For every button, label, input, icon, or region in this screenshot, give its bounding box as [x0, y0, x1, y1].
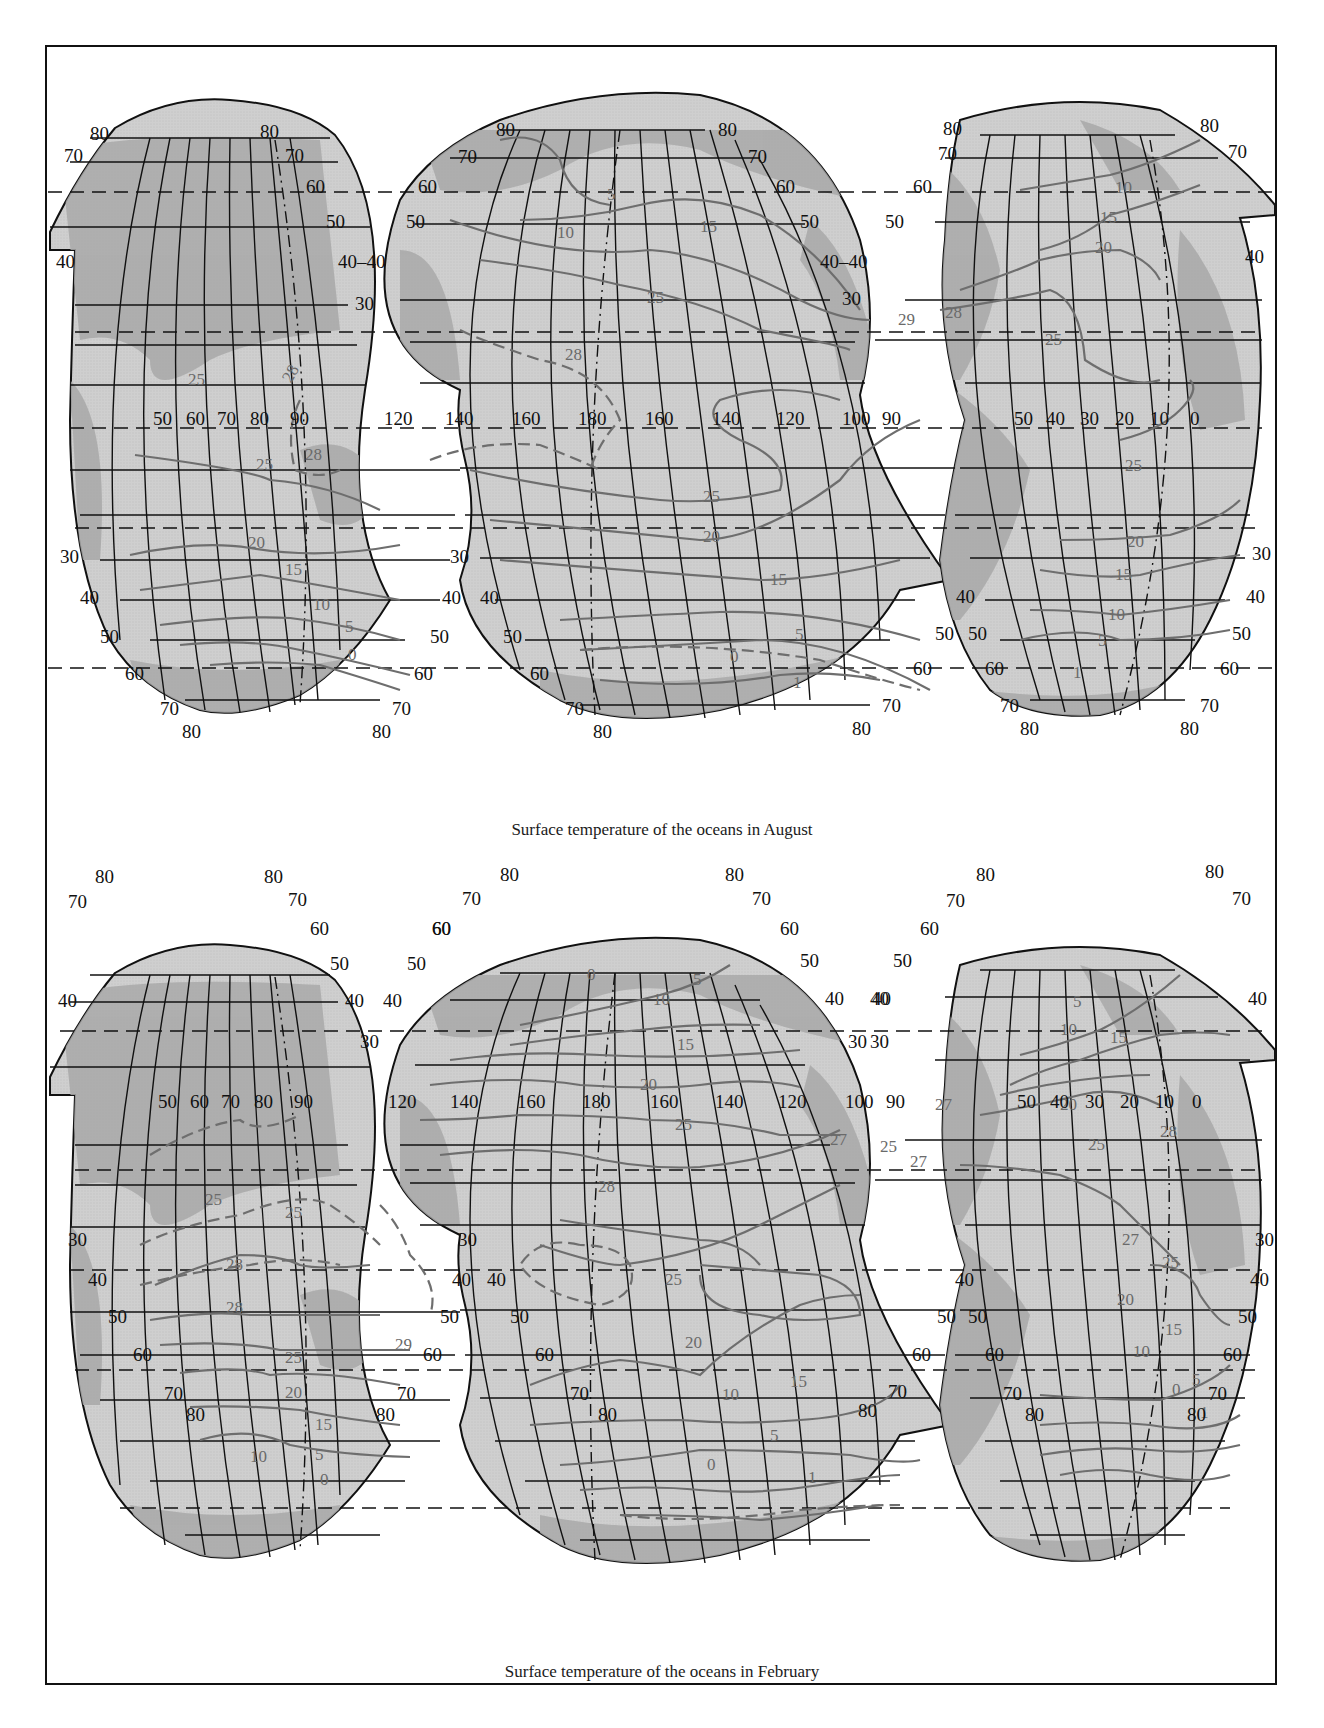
svg-text:15: 15 — [677, 1035, 694, 1054]
svg-text:20: 20 — [685, 1333, 702, 1352]
svg-text:28: 28 — [598, 1177, 615, 1196]
svg-text:10: 10 — [557, 223, 574, 242]
svg-text:15: 15 — [770, 570, 787, 589]
svg-text:70: 70 — [397, 1383, 416, 1404]
svg-text:60: 60 — [913, 176, 932, 197]
svg-text:5: 5 — [1073, 992, 1082, 1011]
svg-text:1: 1 — [793, 673, 802, 692]
svg-text:30: 30 — [1080, 408, 1099, 429]
svg-text:25: 25 — [256, 455, 273, 474]
svg-text:40: 40 — [872, 988, 891, 1009]
svg-text:80: 80 — [90, 123, 109, 144]
svg-text:40: 40 — [1050, 1091, 1069, 1112]
svg-text:60: 60 — [780, 918, 799, 939]
svg-text:180: 180 — [578, 408, 607, 429]
svg-text:5: 5 — [693, 970, 702, 989]
svg-text:70: 70 — [938, 143, 957, 164]
svg-text:1: 1 — [1073, 663, 1082, 682]
svg-text:80: 80 — [852, 718, 871, 739]
svg-text:60: 60 — [1220, 658, 1239, 679]
svg-text:28: 28 — [226, 1298, 243, 1317]
svg-text:80: 80 — [260, 121, 279, 142]
svg-text:100: 100 — [842, 408, 871, 429]
svg-text:120: 120 — [776, 408, 805, 429]
svg-text:5: 5 — [345, 617, 354, 636]
svg-text:27: 27 — [910, 1152, 928, 1171]
svg-text:80: 80 — [858, 1400, 877, 1421]
svg-text:10: 10 — [1060, 1020, 1077, 1039]
svg-text:20: 20 — [1127, 532, 1144, 551]
svg-text:0: 0 — [1192, 1091, 1202, 1112]
svg-text:40: 40 — [1245, 246, 1264, 267]
svg-text:70: 70 — [946, 890, 965, 911]
svg-text:20: 20 — [1120, 1091, 1139, 1112]
svg-text:40: 40 — [1250, 1269, 1269, 1290]
svg-text:10: 10 — [313, 595, 330, 614]
svg-text:70: 70 — [882, 695, 901, 716]
svg-text:40: 40 — [58, 990, 77, 1011]
svg-text:70: 70 — [392, 698, 411, 719]
svg-text:70: 70 — [1000, 695, 1019, 716]
svg-text:50: 50 — [510, 1306, 529, 1327]
svg-text:50: 50 — [158, 1091, 177, 1112]
svg-text:27: 27 — [830, 1130, 848, 1149]
svg-text:25: 25 — [665, 1270, 682, 1289]
svg-text:30: 30 — [848, 1031, 867, 1052]
svg-text:40: 40 — [452, 1269, 471, 1290]
svg-text:50: 50 — [100, 626, 119, 647]
svg-text:15: 15 — [315, 1415, 332, 1434]
caption-august: Surface temperature of the oceans in Aug… — [0, 820, 1324, 840]
svg-text:60: 60 — [985, 658, 1004, 679]
svg-text:50: 50 — [326, 211, 345, 232]
svg-text:40: 40 — [825, 988, 844, 1009]
svg-text:50: 50 — [1014, 408, 1033, 429]
svg-text:15: 15 — [790, 1372, 807, 1391]
svg-text:70: 70 — [1003, 1383, 1022, 1404]
svg-text:70: 70 — [748, 146, 767, 167]
svg-text:40: 40 — [80, 587, 99, 608]
svg-text:70: 70 — [164, 1383, 183, 1404]
svg-text:10: 10 — [250, 1447, 267, 1466]
svg-text:80: 80 — [1205, 861, 1224, 882]
svg-text:1: 1 — [808, 1468, 817, 1487]
svg-text:80: 80 — [1180, 718, 1199, 739]
svg-text:80: 80 — [500, 864, 519, 885]
svg-text:120: 120 — [388, 1091, 417, 1112]
svg-text:0: 0 — [1190, 408, 1200, 429]
svg-text:0: 0 — [1172, 1380, 1181, 1399]
svg-text:70: 70 — [1232, 888, 1251, 909]
svg-text:25: 25 — [1125, 456, 1142, 475]
svg-text:50: 50 — [407, 953, 426, 974]
svg-text:50: 50 — [800, 950, 819, 971]
svg-text:30: 30 — [870, 1031, 889, 1052]
svg-text:80: 80 — [1200, 115, 1219, 136]
svg-text:15: 15 — [1165, 1320, 1182, 1339]
svg-text:60: 60 — [418, 176, 437, 197]
svg-text:40: 40 — [956, 586, 975, 607]
svg-text:50: 50 — [153, 408, 172, 429]
svg-text:50: 50 — [935, 623, 954, 644]
svg-text:27: 27 — [1122, 1230, 1140, 1249]
svg-text:10: 10 — [1150, 408, 1169, 429]
svg-text:40: 40 — [487, 1269, 506, 1290]
svg-text:140: 140 — [445, 408, 474, 429]
svg-text:25: 25 — [647, 288, 664, 307]
svg-text:50: 50 — [440, 1306, 459, 1327]
svg-text:15: 15 — [700, 217, 717, 236]
svg-text:0: 0 — [730, 647, 739, 666]
svg-text:50: 50 — [968, 1306, 987, 1327]
svg-text:90: 90 — [290, 408, 309, 429]
svg-text:40: 40 — [480, 587, 499, 608]
svg-text:10: 10 — [1133, 1342, 1150, 1361]
svg-text:50: 50 — [330, 953, 349, 974]
svg-text:70: 70 — [1200, 695, 1219, 716]
svg-text:40: 40 — [1248, 988, 1267, 1009]
svg-text:80: 80 — [372, 721, 391, 742]
svg-text:80: 80 — [1025, 1404, 1044, 1425]
svg-text:50: 50 — [1017, 1091, 1036, 1112]
svg-text:0: 0 — [707, 1455, 716, 1474]
svg-text:25: 25 — [1088, 1135, 1105, 1154]
svg-text:70: 70 — [570, 1383, 589, 1404]
svg-text:40: 40 — [383, 990, 402, 1011]
svg-text:80: 80 — [943, 118, 962, 139]
